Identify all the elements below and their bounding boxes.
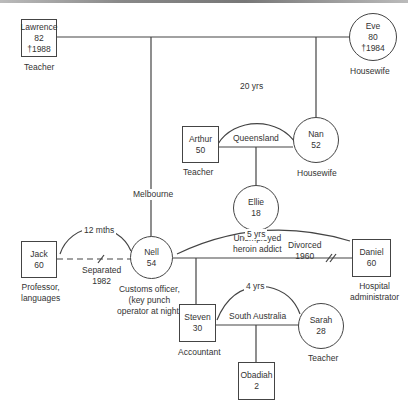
occupation-sarah: Teacher <box>308 353 338 364</box>
occupation-lawrence: Teacher <box>24 62 54 73</box>
place-steven-sarah: South Australia <box>229 311 286 322</box>
person-obadiah[interactable]: Obadiah 2 <box>238 362 275 400</box>
person-lawrence[interactable]: Lawrence 82 †1988 <box>21 19 57 57</box>
occupation-nan: Housewife <box>297 168 337 179</box>
death-year: †1984 <box>361 43 385 54</box>
person-eve[interactable]: Eve 80 †1984 <box>349 13 397 61</box>
place-arthur-nan: Queensland <box>233 133 279 144</box>
duration-jack-nell: 12 mths <box>82 225 116 236</box>
occupation-steven: Accountant <box>178 347 221 358</box>
occupation-jack: Professor, languages <box>21 282 60 304</box>
death-year: †1988 <box>27 44 51 55</box>
person-daniel[interactable]: Daniel 60 <box>352 239 391 277</box>
person-ellie[interactable]: Ellie 18 <box>233 185 279 231</box>
person-name: Nan <box>308 129 324 140</box>
person-age: 60 <box>367 258 376 269</box>
person-jack[interactable]: Jack 60 <box>21 241 57 278</box>
person-name: Sarah <box>310 315 333 326</box>
occupation-daniel: Hospital administrator <box>350 281 399 303</box>
person-age: 54 <box>147 258 156 269</box>
person-age: 18 <box>251 208 260 219</box>
person-age: 60 <box>34 260 43 271</box>
duration-steven-sarah: 4 yrs <box>244 281 266 292</box>
person-nan[interactable]: Nan 52 <box>293 117 339 163</box>
person-name: Daniel <box>359 247 383 258</box>
person-age: 82 <box>34 33 43 44</box>
person-name: Nell <box>144 247 159 258</box>
person-age: 30 <box>193 323 202 334</box>
occupation-nell: Customs officer, (key punch operator at … <box>117 284 182 317</box>
person-name: Arthur <box>189 134 212 145</box>
person-nell[interactable]: Nell 54 <box>130 236 173 279</box>
occupation-eve: Housewife <box>350 66 390 77</box>
person-age: 80 <box>368 32 377 43</box>
person-arthur[interactable]: Arthur 50 <box>182 126 219 163</box>
person-name: Ellie <box>248 197 264 208</box>
person-age: 50 <box>196 145 205 156</box>
place-melbourne: Melbourne <box>131 189 175 200</box>
person-name: Lawrence <box>21 22 58 33</box>
status-jack-nell: Separated 1982 <box>82 265 121 287</box>
duration-nell-daniel: 5 yrs <box>245 229 267 240</box>
person-sarah[interactable]: Sarah 28 <box>298 303 344 349</box>
person-steven[interactable]: Steven 30 <box>179 304 216 342</box>
person-name: Obadiah <box>240 370 272 381</box>
person-age: 52 <box>311 140 320 151</box>
person-age: 2 <box>254 381 259 392</box>
person-name: Jack <box>30 249 47 260</box>
person-age: 28 <box>316 326 325 337</box>
status-nell-daniel: Divorced 1960 <box>288 240 322 262</box>
occupation-arthur: Teacher <box>183 167 213 178</box>
person-name: Eve <box>366 21 381 32</box>
duration-arthur-nan: 20 yrs <box>238 81 265 92</box>
person-name: Steven <box>184 312 210 323</box>
